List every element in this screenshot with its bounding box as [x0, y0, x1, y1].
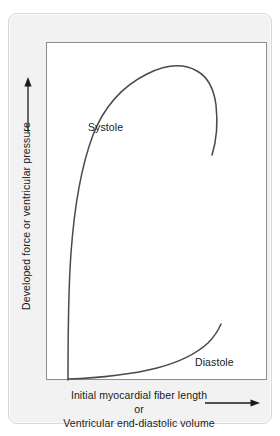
x-axis-title-line3: Ventricular end-diastolic volume — [39, 416, 239, 430]
curves-svg — [47, 43, 268, 381]
right-arrow-icon — [205, 396, 261, 410]
systole-curve — [68, 66, 217, 380]
diastole-label: Diastole — [195, 356, 234, 368]
systole-label: Systole — [88, 121, 123, 133]
diastole-curve — [68, 324, 221, 379]
x-axis-arrow — [205, 396, 261, 410]
y-axis-title: Developed force or ventricular pressure — [20, 91, 32, 341]
figure-card: Developed force or ventricular pressure … — [8, 13, 272, 424]
plot-area: Systole Diastole — [46, 42, 267, 380]
